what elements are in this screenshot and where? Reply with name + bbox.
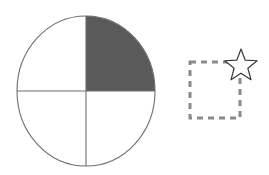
five-pointed-star-group — [225, 49, 257, 80]
diagram-svg — [0, 0, 269, 175]
figure-canvas — [0, 0, 269, 175]
dashed-square — [190, 62, 240, 118]
circle-quadrant-top-left — [17, 16, 86, 91]
quartered-circle-group — [17, 16, 155, 166]
circle-quadrant-bottom-left — [17, 91, 86, 166]
dashed-square-group — [190, 62, 240, 118]
circle-quadrant-top-right-shaded — [86, 16, 155, 91]
five-pointed-star — [225, 49, 257, 80]
circle-quadrant-bottom-right — [86, 91, 155, 166]
